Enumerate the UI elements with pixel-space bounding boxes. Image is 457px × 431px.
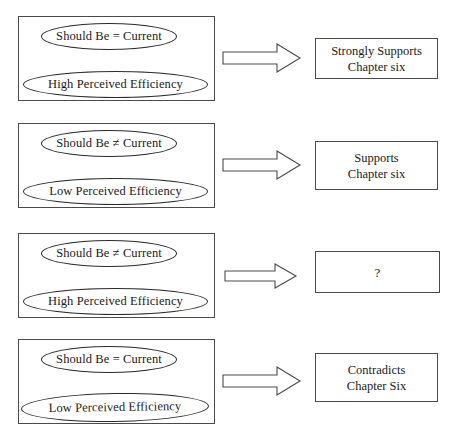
outcome-box-2: Supports Chapter six bbox=[315, 141, 438, 190]
condition-box-3: Should Be ≠ Current High Perceived Effic… bbox=[18, 233, 215, 318]
condition-ellipse-efficiency-4: Low Perceived Efficiency bbox=[21, 392, 209, 424]
flow-diagram: Should Be = Current High Perceived Effic… bbox=[0, 0, 457, 431]
condition-ellipse-state-2: Should Be ≠ Current bbox=[41, 130, 177, 157]
right-arrow-icon-2 bbox=[222, 149, 302, 181]
outcome-box-1-line-2: Chapter six bbox=[348, 59, 405, 75]
outcome-box-1: Strongly Supports Chapter six bbox=[315, 38, 438, 79]
condition-ellipse-efficiency-3-label: High Perceived Efficiency bbox=[48, 295, 183, 308]
condition-box-1: Should Be = Current High Perceived Effic… bbox=[18, 16, 215, 101]
condition-ellipse-state-4: Should Be = Current bbox=[41, 346, 177, 373]
condition-ellipse-state-4-label: Should Be = Current bbox=[56, 353, 162, 366]
condition-box-2: Should Be ≠ Current Low Perceived Effici… bbox=[18, 123, 215, 208]
outcome-box-1-line-1: Strongly Supports bbox=[331, 43, 422, 59]
outcome-box-4-line-2: Chapter Six bbox=[347, 378, 406, 394]
condition-ellipse-state-2-label: Should Be ≠ Current bbox=[56, 137, 162, 150]
right-arrow-icon-3 bbox=[224, 262, 298, 290]
condition-ellipse-state-1-label: Should Be = Current bbox=[56, 30, 162, 43]
condition-ellipse-efficiency-3: High Perceived Efficiency bbox=[23, 288, 208, 315]
outcome-box-3-line-1: ? bbox=[375, 266, 381, 279]
condition-ellipse-efficiency-4-label: Low Perceived Efficiency bbox=[49, 400, 182, 415]
condition-ellipse-state-3-label: Should Be ≠ Current bbox=[56, 247, 162, 260]
outcome-box-4: Contradicts Chapter Six bbox=[315, 353, 438, 402]
outcome-box-3: ? bbox=[315, 251, 440, 293]
condition-ellipse-state-1: Should Be = Current bbox=[41, 23, 177, 50]
outcome-box-2-line-2: Chapter six bbox=[348, 166, 405, 182]
right-arrow-icon-4 bbox=[222, 365, 302, 397]
condition-ellipse-efficiency-1: High Perceived Efficiency bbox=[23, 71, 208, 98]
condition-ellipse-efficiency-1-label: High Perceived Efficiency bbox=[48, 78, 183, 91]
condition-ellipse-state-3: Should Be ≠ Current bbox=[41, 240, 177, 267]
condition-ellipse-efficiency-2: Low Perceived Efficiency bbox=[23, 178, 208, 205]
right-arrow-icon-1 bbox=[222, 42, 302, 74]
outcome-box-4-line-1: Contradicts bbox=[348, 362, 406, 378]
condition-ellipse-efficiency-2-label: Low Perceived Efficiency bbox=[49, 185, 182, 198]
condition-box-4: Should Be = Current Low Perceived Effici… bbox=[18, 339, 215, 424]
outcome-box-2-line-1: Supports bbox=[354, 150, 398, 166]
